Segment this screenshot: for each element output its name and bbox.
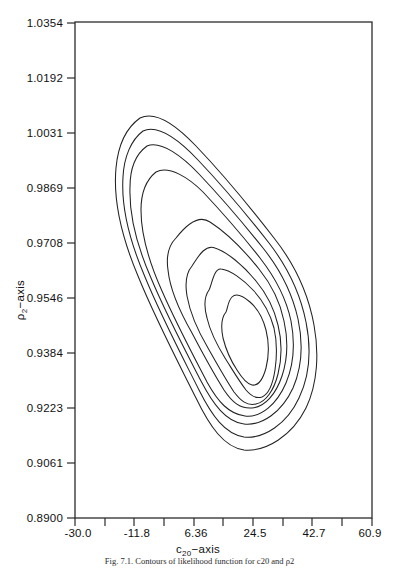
y-tick-marks — [67, 23, 75, 518]
contour-level-7 — [205, 269, 276, 398]
x-tick-label: 6.36 — [184, 527, 207, 539]
x-tick-marks — [75, 518, 372, 526]
y-tick-label: 0.9546 — [27, 292, 63, 304]
x-tick-label: 60.9 — [358, 527, 381, 539]
x-tick-label: 42.7 — [302, 527, 325, 539]
contour-level-6 — [186, 247, 281, 404]
y-tick-label: 0.9061 — [27, 457, 63, 469]
x-tick-label: -11.8 — [124, 527, 150, 539]
y-tick-label: 0.9384 — [27, 347, 64, 359]
y-axis-title-suffix: −axis — [14, 280, 26, 309]
x-axis-title-suffix: −axis — [191, 543, 220, 555]
y-tick-label: 1.0354 — [27, 17, 64, 29]
plot-frame — [75, 22, 372, 518]
contour-level-8 — [222, 295, 268, 385]
x-tick-label: -30.0 — [64, 527, 91, 539]
contour-plot: 1.0354 1.0192 1.0031 0.9869 0.9708 0.954… — [0, 0, 399, 568]
figure-caption: Fig. 7.1. Contours of likelihood functio… — [0, 556, 399, 568]
x-tick-labels: -30.0 -11.8 6.36 24.5 42.7 60.9 — [64, 527, 381, 539]
x-tick-label: 24.5 — [243, 527, 266, 539]
y-tick-label: 0.9708 — [27, 237, 63, 249]
y-tick-label: 0.9223 — [27, 402, 63, 414]
contour-level-2 — [123, 129, 309, 437]
contour-lines — [115, 116, 316, 450]
y-tick-label: 1.0192 — [27, 72, 63, 84]
y-tick-label: 0.9869 — [27, 182, 63, 194]
y-tick-label: 1.0031 — [27, 127, 63, 139]
figure-container: 1.0354 1.0192 1.0031 0.9869 0.9708 0.954… — [0, 0, 399, 568]
y-tick-label: 0.8900 — [27, 512, 63, 524]
y-tick-labels: 1.0354 1.0192 1.0031 0.9869 0.9708 0.954… — [27, 17, 64, 524]
